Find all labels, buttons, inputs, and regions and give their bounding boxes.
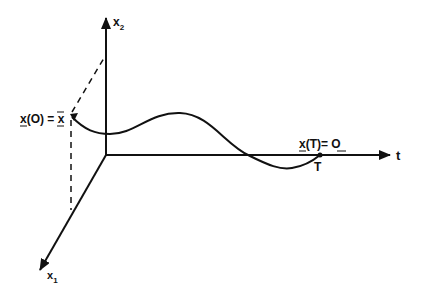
x1-axis bbox=[40, 155, 106, 270]
state-trajectory-curve bbox=[72, 113, 320, 168]
final-state-label: x(T)= O bbox=[299, 137, 341, 151]
t-axis-label: t bbox=[396, 148, 401, 163]
x2-axis-label: x2 bbox=[113, 15, 125, 32]
x1-axis-label: x1 bbox=[47, 269, 58, 285]
trajectory-diagram: x2 x1 t x(O) = x x(T)= O T bbox=[0, 0, 421, 287]
projection-dashed-diagonal bbox=[72, 58, 104, 112]
initial-state-label: x(O) = x bbox=[20, 112, 65, 126]
start-point-marker bbox=[70, 113, 78, 121]
end-point-marker bbox=[318, 153, 323, 158]
final-time-label: T bbox=[314, 160, 322, 174]
